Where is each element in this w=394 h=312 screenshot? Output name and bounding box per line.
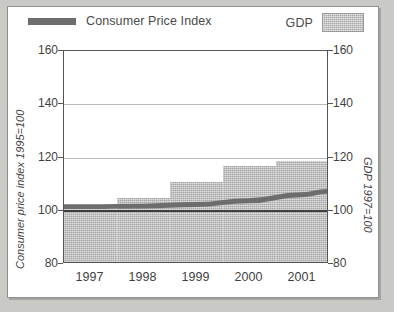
line-swatch-icon — [28, 18, 76, 25]
x-tick-label: 2001 — [276, 270, 328, 284]
left-axis: 16014012010080 — [26, 50, 58, 263]
tick-mark — [328, 103, 333, 104]
hatched-box-swatch-icon — [322, 13, 364, 32]
x-tick-label: 2000 — [223, 270, 275, 284]
tick-mark — [58, 263, 63, 264]
right-y-tick-label: 120 — [333, 151, 363, 163]
left-y-tick-label: 160 — [28, 44, 58, 56]
tick-mark — [328, 157, 333, 158]
left-y-tick-label: 80 — [28, 257, 58, 269]
tick-mark — [328, 263, 333, 264]
right-y-tick-label: 100 — [333, 204, 363, 216]
left-y-tick-label: 120 — [28, 151, 58, 163]
left-y-tick-label: 100 — [28, 204, 58, 216]
left-y-tick-label: 140 — [28, 97, 58, 109]
x-tick-label: 1999 — [170, 270, 222, 284]
right-y-tick-label: 160 — [333, 44, 363, 56]
plot-area — [63, 50, 328, 263]
x-axis: 19971998199920002001 — [63, 266, 328, 286]
legend-item-gdp: GDP — [286, 13, 364, 32]
tick-mark — [328, 210, 333, 211]
legend-item-cpi: Consumer Price Index — [28, 14, 212, 28]
cpi-line-series — [64, 51, 327, 262]
chart-card: Consumer Price Index GDP Consumer price … — [7, 6, 379, 298]
x-tick-label: 1997 — [64, 270, 116, 284]
legend-label-gdp: GDP — [286, 16, 313, 30]
chart-legend: Consumer Price Index GDP — [8, 7, 378, 37]
x-tick-label: 1998 — [117, 270, 169, 284]
tick-mark — [328, 50, 333, 51]
legend-label-cpi: Consumer Price Index — [86, 14, 212, 28]
right-axis: 16014012010080 — [333, 50, 365, 263]
right-y-tick-label: 140 — [333, 97, 363, 109]
right-y-tick-label: 80 — [333, 257, 363, 269]
